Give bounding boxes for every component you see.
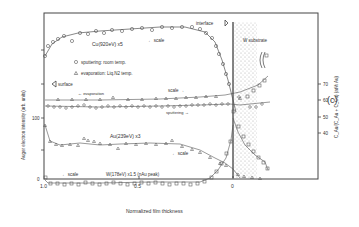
sputtering-label: sputtering →: [166, 110, 189, 115]
chart-figure: Cu(920eV) x5 ← scale sputtering: room te…: [0, 0, 359, 227]
legend: sputtering: room temp. evaporation: Liq.…: [74, 60, 132, 76]
w-scale-label: ← scale: [62, 172, 79, 177]
y-axis-label-left: Auger electron intensity (arb. units): [21, 90, 26, 160]
figure-label: (c): [327, 95, 338, 105]
legend-circle-icon: [74, 60, 77, 63]
substrate-label: W substrate: [243, 38, 268, 43]
legend-evaporation: evaporation: Liq.N2 temp.: [81, 71, 133, 76]
evap-scale-label: scale →: [168, 88, 184, 93]
x-axis-label: Normalized film thickness: [126, 208, 183, 214]
evaporation-label: ← evaporation: [78, 91, 104, 96]
x-tick-0: 0: [231, 183, 234, 189]
y-right-tick-70: 70: [323, 82, 329, 87]
interface-marker-icon: [225, 20, 228, 26]
axis-break-icon: [260, 52, 265, 68]
w-label: W(178eV) x1.5 (nAu peak): [106, 172, 160, 177]
au-label: Au(239eV) x3: [110, 133, 141, 139]
cu-scale-label: ← scale: [148, 38, 165, 43]
legend-triangle-icon: [74, 72, 77, 75]
substrate-region: [233, 22, 257, 178]
interface-label: interface: [196, 21, 214, 26]
y-tick-0: 0: [37, 177, 40, 182]
surface-label: surface: [58, 82, 73, 87]
x-tick-1: 1.0: [40, 183, 47, 189]
au-scale-label: ← scale: [172, 151, 189, 156]
y-right-tick-50: 50: [323, 115, 329, 120]
cu-label: Cu(920eV) x5: [92, 41, 123, 47]
y-tick-100: 100: [32, 116, 40, 121]
y-axis-label-right: C_Au/(C_Au + C_Cu) (at% Au): [334, 76, 339, 138]
x-tick-0-5: 0.5: [134, 183, 141, 189]
legend-sputtering: sputtering: room temp.: [81, 60, 126, 65]
au-curve: [45, 125, 240, 178]
y-right-tick-40: 40: [323, 131, 329, 136]
surface-marker-icon: [52, 81, 56, 87]
